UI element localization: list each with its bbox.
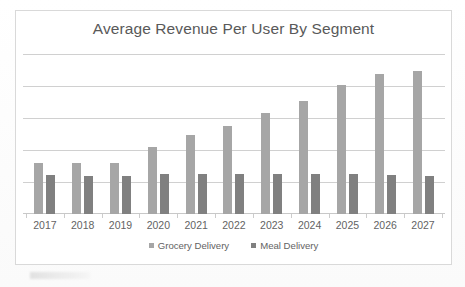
x-label-2019: 2019 xyxy=(102,219,140,231)
x-label-2026: 2026 xyxy=(366,219,404,231)
x-axis-labels: 2017201820192020202120222023202420252026… xyxy=(23,219,445,231)
bar-group-2024 xyxy=(291,54,329,214)
bar-grocery-delivery-2017[interactable] xyxy=(34,163,43,214)
bar-group-2025 xyxy=(329,54,367,214)
bar-meal-delivery-2024[interactable] xyxy=(311,174,320,214)
bar-group-2023 xyxy=(253,54,291,214)
legend-label: Meal Delivery xyxy=(260,240,318,251)
bar-group-2017 xyxy=(26,54,64,214)
bar-group-2021 xyxy=(177,54,215,214)
x-tick-2 xyxy=(102,214,103,218)
bar-meal-delivery-2018[interactable] xyxy=(84,176,93,214)
x-label-2023: 2023 xyxy=(253,219,291,231)
legend-label: Grocery Delivery xyxy=(158,240,229,251)
bar-meal-delivery-2019[interactable] xyxy=(122,176,131,214)
x-label-2017: 2017 xyxy=(26,219,64,231)
bar-group-2022 xyxy=(215,54,253,214)
bar-grocery-delivery-2023[interactable] xyxy=(261,113,270,214)
page-smudge xyxy=(30,272,90,279)
bar-grocery-delivery-2022[interactable] xyxy=(223,126,232,214)
bar-group-2019 xyxy=(102,54,140,214)
plot-area xyxy=(23,54,445,214)
bar-grocery-delivery-2024[interactable] xyxy=(299,101,308,214)
bar-meal-delivery-2017[interactable] xyxy=(46,175,55,214)
x-tick-4 xyxy=(177,214,178,218)
x-label-2018: 2018 xyxy=(64,219,102,231)
legend-item-grocery-delivery[interactable]: Grocery Delivery xyxy=(149,240,229,251)
bar-grocery-delivery-2021[interactable] xyxy=(186,135,195,214)
x-label-2024: 2024 xyxy=(291,219,329,231)
x-tick-6 xyxy=(253,214,254,218)
x-tick-5 xyxy=(215,214,216,218)
bar-meal-delivery-2026[interactable] xyxy=(387,175,396,214)
x-tick-3 xyxy=(139,214,140,218)
chart-title: Average Revenue Per User By Segment xyxy=(16,20,451,38)
bar-group-2018 xyxy=(64,54,102,214)
x-tick-7 xyxy=(291,214,292,218)
bar-groups xyxy=(23,54,445,214)
chart-legend: Grocery DeliveryMeal Delivery xyxy=(16,240,451,251)
x-tick-8 xyxy=(329,214,330,218)
bar-grocery-delivery-2027[interactable] xyxy=(413,71,422,214)
bar-grocery-delivery-2025[interactable] xyxy=(337,85,346,214)
x-label-2020: 2020 xyxy=(139,219,177,231)
bar-grocery-delivery-2026[interactable] xyxy=(375,74,384,214)
x-axis-ticks xyxy=(23,214,445,218)
x-tick-11 xyxy=(442,214,443,218)
grocery-swatch-icon xyxy=(149,243,154,248)
x-label-2025: 2025 xyxy=(329,219,367,231)
bar-group-2020 xyxy=(139,54,177,214)
x-tick-9 xyxy=(366,214,367,218)
bar-meal-delivery-2025[interactable] xyxy=(349,174,358,214)
x-tick-10 xyxy=(404,214,405,218)
bar-grocery-delivery-2018[interactable] xyxy=(72,163,81,214)
x-label-2021: 2021 xyxy=(177,219,215,231)
x-label-2027: 2027 xyxy=(404,219,442,231)
bar-grocery-delivery-2020[interactable] xyxy=(148,147,157,214)
bar-meal-delivery-2023[interactable] xyxy=(273,174,282,214)
legend-item-meal-delivery[interactable]: Meal Delivery xyxy=(251,240,318,251)
bar-meal-delivery-2022[interactable] xyxy=(235,174,244,214)
bar-meal-delivery-2027[interactable] xyxy=(425,176,434,214)
bar-grocery-delivery-2019[interactable] xyxy=(110,163,119,214)
x-tick-0 xyxy=(26,214,27,218)
meal-swatch-icon xyxy=(251,243,256,248)
chart-container: Average Revenue Per User By Segment 2017… xyxy=(15,10,452,265)
x-tick-1 xyxy=(64,214,65,218)
x-label-2022: 2022 xyxy=(215,219,253,231)
bar-meal-delivery-2020[interactable] xyxy=(160,174,169,214)
bar-meal-delivery-2021[interactable] xyxy=(198,174,207,214)
bar-group-2027 xyxy=(404,54,442,214)
bar-group-2026 xyxy=(366,54,404,214)
